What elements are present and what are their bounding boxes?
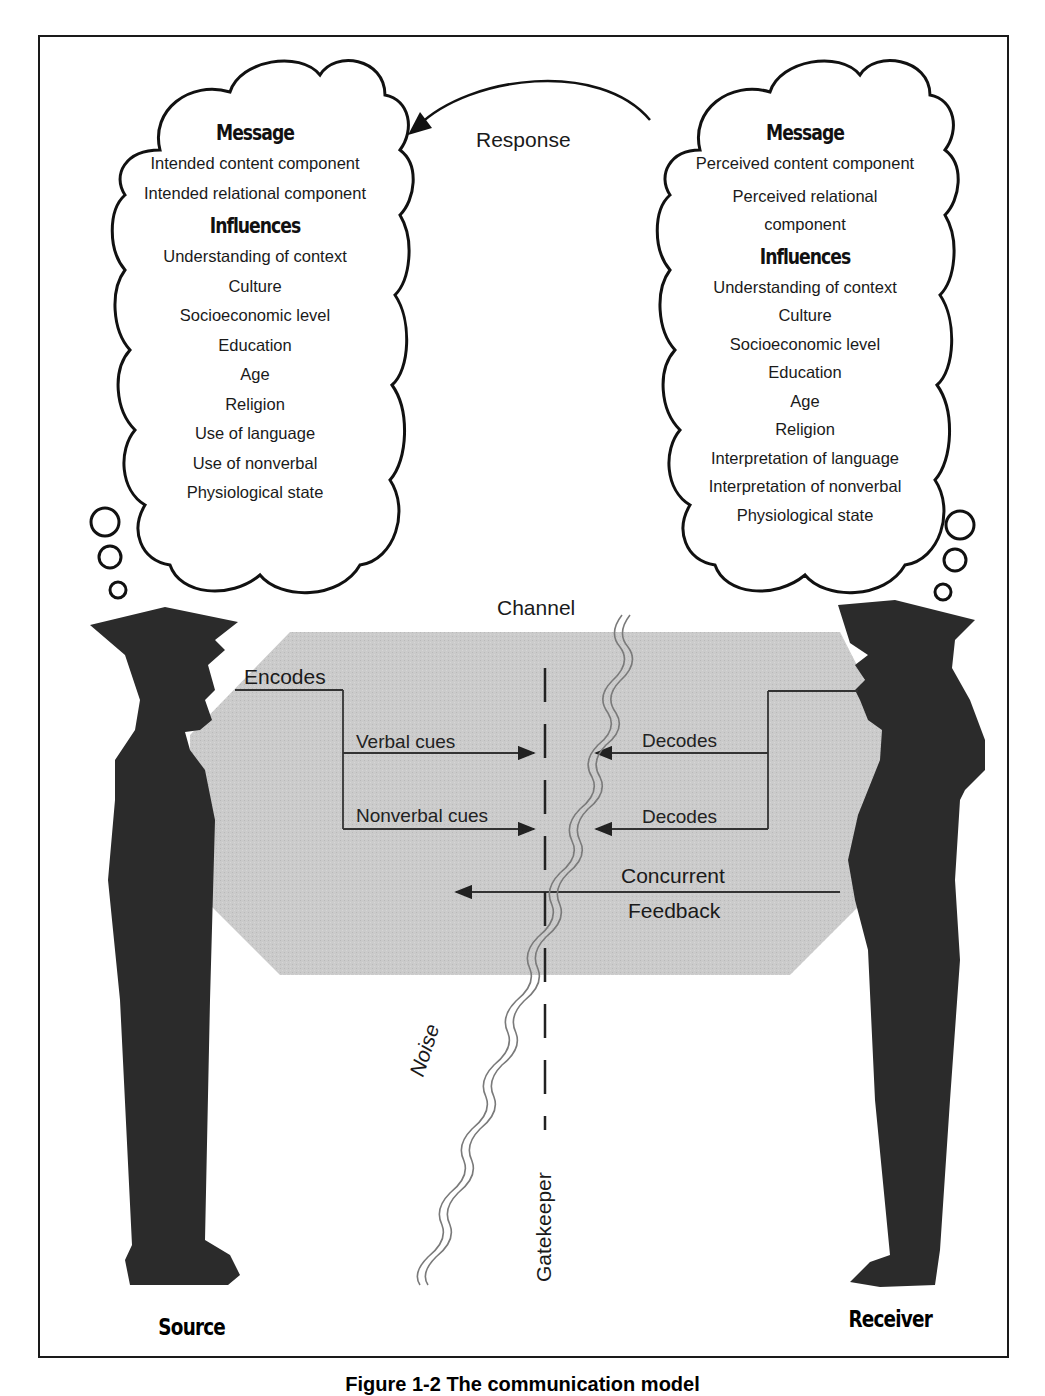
- source-influence-item: Physiological state: [120, 478, 390, 508]
- channel-label: Channel: [497, 596, 575, 620]
- receiver-influence-item: Religion: [670, 415, 940, 444]
- source-influence-item: Socioeconomic level: [120, 301, 390, 331]
- source-influence-item: Use of nonverbal: [120, 449, 390, 479]
- response-arrow: [418, 81, 650, 126]
- source-influence-item: Culture: [120, 272, 390, 302]
- source-influence-item: Use of language: [120, 419, 390, 449]
- receiver-message-heading: Message: [694, 121, 915, 145]
- concurrent-feedback-label-line1: Concurrent: [621, 864, 725, 888]
- receiver-influence-item: Education: [670, 358, 940, 387]
- receiver-influence-item: Socioeconomic level: [670, 330, 940, 359]
- concurrent-feedback-label-line2: Feedback: [628, 899, 720, 923]
- decodes-verbal-label: Decodes: [642, 730, 717, 752]
- gatekeeper-label: Gatekeeper: [532, 1172, 556, 1282]
- response-label: Response: [476, 128, 571, 152]
- receiver-influence-item: Culture: [670, 301, 940, 330]
- receiver-influence-item: Age: [670, 387, 940, 416]
- receiver-influence-item: Interpretation of language: [670, 444, 940, 473]
- receiver-influences-heading: Influences: [694, 245, 915, 269]
- receiver-influence-item: Understanding of context: [670, 273, 940, 302]
- source-influence-item: Understanding of context: [120, 242, 390, 272]
- verbal-cues-label: Verbal cues: [356, 731, 455, 753]
- source-influence-item: Religion: [120, 390, 390, 420]
- nonverbal-cues-label: Nonverbal cues: [356, 805, 488, 827]
- source-influences-heading: Influences: [144, 214, 365, 238]
- source-message-item: Intended relational component: [120, 179, 390, 209]
- receiver-label: Receiver: [848, 1306, 932, 1332]
- receiver-message-item: Perceived relational component: [720, 182, 890, 239]
- source-influence-item: Age: [120, 360, 390, 390]
- source-message-heading: Message: [144, 121, 365, 145]
- source-message-item: Intended content component: [120, 149, 390, 179]
- decodes-nonverbal-label: Decodes: [642, 806, 717, 828]
- receiver-influence-item: Interpretation of nonverbal: [670, 472, 940, 501]
- receiver-influence-item: Physiological state: [670, 501, 940, 530]
- encodes-label: Encodes: [244, 665, 326, 689]
- receiver-cloud-content: Message Perceived content component Perc…: [670, 115, 940, 529]
- source-influence-item: Education: [120, 331, 390, 361]
- receiver-message-item: Perceived content component: [670, 149, 940, 178]
- source-cloud-content: Message Intended content component Inten…: [120, 115, 390, 508]
- figure-caption: Figure 1-2 The communication model: [0, 1373, 1045, 1396]
- source-label: Source: [158, 1314, 225, 1340]
